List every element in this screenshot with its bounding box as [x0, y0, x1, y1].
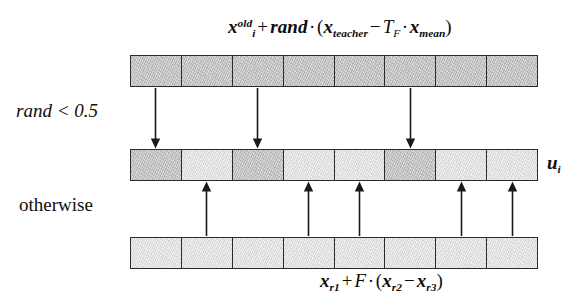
de-mutant-vector-row [130, 237, 538, 269]
up-arrow-cell-4 [304, 182, 313, 237]
formula-top-sub-teacher: teacher [333, 27, 368, 39]
vector-cell [233, 56, 284, 86]
vector-cell [335, 56, 386, 86]
vector-cell [385, 150, 436, 180]
formula-top-sub-mean: mean [419, 27, 445, 39]
vector-cell [335, 238, 386, 268]
formula-top-rparen: ) [445, 16, 451, 37]
vector-cell [233, 238, 284, 268]
trial-vector-row [130, 149, 538, 181]
down-arrow-cell-3 [253, 88, 262, 149]
formula-top-tf: TF [383, 16, 401, 37]
formula-bottom-sub-r1: r1 [330, 281, 340, 293]
up-arrow-cell-8 [508, 182, 517, 237]
formula-top-minus: − [368, 16, 383, 37]
vector-cell [487, 150, 537, 180]
vector-cell [436, 238, 487, 268]
formula-bottom-plus: + [340, 270, 355, 291]
condition-label-otherwise: otherwise [19, 194, 93, 216]
formula-bottom-cdot: · [366, 270, 375, 291]
vector-cell [131, 150, 182, 180]
up-arrow-cell-2 [202, 182, 211, 237]
trial-vector-label-u-i: ui [547, 152, 561, 175]
label-u-symbol: u [547, 152, 558, 173]
vector-cell [131, 238, 182, 268]
vector-cell [487, 238, 537, 268]
vector-cell [436, 56, 487, 86]
up-arrow-cell-7 [457, 182, 466, 237]
formula-top-x-i-old: xoldi [228, 16, 255, 37]
formula-bottom-f: F [355, 270, 367, 291]
up-arrow-cell-5 [355, 182, 364, 237]
formula-bottom-x-r1: xr1 [320, 270, 340, 291]
vector-cell [284, 56, 335, 86]
formula-top-cdot-1: · [308, 16, 317, 37]
formula-bottom-minus: − [402, 270, 417, 291]
vector-cell [385, 238, 436, 268]
label-u-subscript: i [558, 163, 561, 175]
vector-cell [284, 150, 335, 180]
vector-cell [233, 150, 284, 180]
formula-bottom-x-r3: xr3 [417, 270, 437, 291]
formula-bottom-expression: xr1+F·(xr2−xr3) [320, 270, 443, 293]
formula-top-rand: rand [270, 16, 307, 37]
formula-bottom-sub-r3: r3 [426, 281, 436, 293]
formula-top-x-mean: xmean [410, 16, 446, 37]
vector-cell [284, 238, 335, 268]
vector-cell [131, 56, 182, 86]
formula-top-expression: xoldi+rand·(xteacher−TF·xmean) [228, 16, 452, 39]
vector-cell [182, 150, 233, 180]
condition-label-rand-less-than-half: rand < 0.5 [16, 100, 98, 122]
down-arrow-cell-1 [151, 88, 160, 149]
formula-top-plus: + [255, 16, 270, 37]
vector-cell [182, 238, 233, 268]
formula-top-sup-old: old [238, 17, 253, 29]
vector-cell [436, 150, 487, 180]
formula-bottom-x-r2: xr2 [382, 270, 402, 291]
vector-cell [385, 56, 436, 86]
vector-cell [487, 56, 537, 86]
diagram-canvas: xoldi+rand·(xteacher−TF·xmean) [0, 0, 587, 308]
teacher-mutant-vector-row [130, 55, 538, 87]
down-arrow-cell-6 [406, 88, 415, 149]
formula-top-x-teacher: xteacher [323, 16, 367, 37]
formula-top-cdot-2: · [400, 16, 409, 37]
vector-cell [182, 56, 233, 86]
formula-bottom-sub-r2: r2 [392, 281, 402, 293]
vector-cell [335, 150, 386, 180]
formula-bottom-rparen: ) [437, 270, 443, 291]
